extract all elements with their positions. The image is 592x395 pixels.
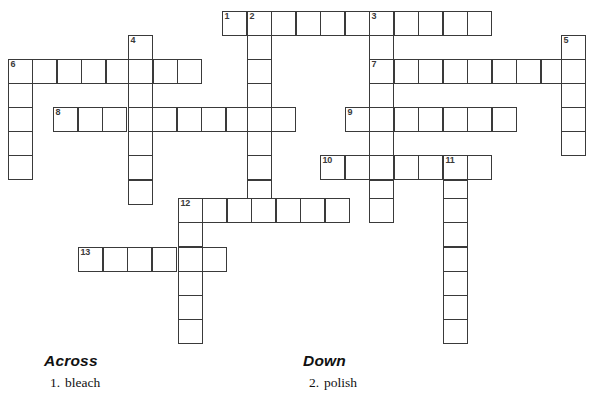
grid-cell[interactable] — [467, 155, 492, 180]
grid-cell[interactable] — [201, 107, 226, 132]
grid-cell[interactable] — [8, 83, 33, 108]
grid-cell[interactable] — [561, 83, 586, 108]
grid-cell[interactable] — [152, 247, 177, 272]
grid-cell[interactable] — [81, 59, 106, 84]
grid-cell[interactable] — [300, 198, 325, 223]
cell-number: 12 — [181, 198, 190, 208]
grid-cell-numbered[interactable]: 10 — [320, 155, 345, 180]
grid-cell[interactable] — [443, 222, 468, 247]
grid-cell[interactable] — [369, 198, 394, 223]
grid-cell[interactable] — [369, 155, 394, 180]
grid-cell[interactable] — [320, 11, 345, 36]
grid-cell[interactable] — [202, 198, 227, 223]
grid-cell-numbered[interactable]: 11 — [443, 155, 468, 180]
grid-cell[interactable] — [443, 107, 468, 132]
grid-cell[interactable] — [369, 131, 394, 156]
grid-cell[interactable] — [443, 198, 468, 223]
grid-cell[interactable] — [128, 59, 153, 84]
grid-cell[interactable] — [247, 83, 272, 108]
grid-cell[interactable] — [492, 107, 517, 132]
grid-cell[interactable] — [127, 247, 152, 272]
grid-cell[interactable] — [8, 131, 33, 156]
grid-cell[interactable] — [561, 59, 586, 84]
grid-cell-numbered[interactable]: 3 — [369, 11, 394, 36]
grid-cell[interactable] — [8, 155, 33, 180]
grid-cell[interactable] — [418, 155, 443, 180]
grid-cell[interactable] — [394, 11, 419, 36]
clue-item[interactable]: 2.polish — [303, 375, 357, 391]
clue-item[interactable]: 1.bleach — [44, 375, 100, 391]
grid-cell-numbered[interactable]: 8 — [53, 107, 78, 132]
grid-cell[interactable] — [561, 107, 586, 132]
grid-cell[interactable] — [247, 131, 272, 156]
grid-cell[interactable] — [369, 107, 394, 132]
grid-cell[interactable] — [418, 107, 443, 132]
grid-cell[interactable] — [177, 59, 202, 84]
grid-cell[interactable] — [178, 319, 203, 344]
grid-cell-numbered[interactable]: 5 — [561, 35, 586, 60]
grid-cell[interactable] — [369, 83, 394, 108]
grid-cell[interactable] — [561, 131, 586, 156]
grid-cell[interactable] — [418, 11, 443, 36]
grid-cell[interactable] — [271, 11, 296, 36]
cell-number: 6 — [11, 59, 16, 69]
grid-cell[interactable] — [202, 247, 227, 272]
grid-cell[interactable] — [251, 198, 276, 223]
grid-cell[interactable] — [394, 155, 419, 180]
grid-cell-numbered[interactable]: 12 — [178, 198, 203, 223]
grid-cell[interactable] — [247, 59, 272, 84]
grid-cell[interactable] — [443, 59, 468, 84]
grid-cell[interactable] — [227, 198, 252, 223]
clue-text: bleach — [65, 375, 100, 390]
grid-cell[interactable] — [102, 107, 127, 132]
grid-cell[interactable] — [467, 59, 492, 84]
grid-cell[interactable] — [492, 59, 517, 84]
grid-cell[interactable] — [443, 271, 468, 296]
grid-cell-numbered[interactable]: 1 — [222, 11, 247, 36]
grid-cell[interactable] — [128, 83, 153, 108]
grid-cell[interactable] — [32, 59, 57, 84]
grid-cell[interactable] — [325, 198, 350, 223]
crossword-grid[interactable]: 12345678910111213 — [0, 0, 592, 355]
grid-cell[interactable] — [276, 198, 301, 223]
grid-cell[interactable] — [128, 107, 153, 132]
grid-cell-numbered[interactable]: 7 — [369, 59, 394, 84]
grid-cell[interactable] — [152, 107, 177, 132]
grid-cell[interactable] — [467, 11, 492, 36]
grid-cell[interactable] — [418, 59, 443, 84]
grid-cell[interactable] — [78, 107, 103, 132]
grid-cell[interactable] — [153, 59, 178, 84]
grid-cell[interactable] — [247, 35, 272, 60]
grid-cell[interactable] — [247, 155, 272, 180]
grid-cell[interactable] — [443, 319, 468, 344]
grid-cell[interactable] — [247, 107, 272, 132]
grid-cell[interactable] — [177, 107, 202, 132]
grid-cell[interactable] — [103, 247, 128, 272]
grid-cell-numbered[interactable]: 9 — [345, 107, 370, 132]
grid-cell[interactable] — [178, 222, 203, 247]
grid-cell[interactable] — [178, 295, 203, 320]
grid-cell-numbered[interactable]: 13 — [78, 247, 103, 272]
grid-cell[interactable] — [467, 107, 492, 132]
grid-cell[interactable] — [394, 59, 419, 84]
grid-cell[interactable] — [128, 180, 153, 205]
grid-cell[interactable] — [369, 35, 394, 60]
grid-cell-numbered[interactable]: 4 — [128, 35, 153, 60]
grid-cell[interactable] — [345, 11, 370, 36]
grid-cell[interactable] — [57, 59, 82, 84]
grid-cell-numbered[interactable]: 2 — [247, 11, 272, 36]
grid-cell[interactable] — [178, 271, 203, 296]
grid-cell-numbered[interactable]: 6 — [8, 59, 33, 84]
grid-cell[interactable] — [8, 107, 33, 132]
grid-cell[interactable] — [516, 59, 541, 84]
grid-cell[interactable] — [296, 11, 321, 36]
grid-cell[interactable] — [394, 107, 419, 132]
grid-cell[interactable] — [128, 155, 153, 180]
grid-cell[interactable] — [178, 247, 203, 272]
grid-cell[interactable] — [443, 11, 468, 36]
grid-cell[interactable] — [128, 131, 153, 156]
grid-cell[interactable] — [271, 107, 296, 132]
grid-cell[interactable] — [345, 155, 370, 180]
grid-cell[interactable] — [443, 295, 468, 320]
grid-cell[interactable] — [443, 247, 468, 272]
